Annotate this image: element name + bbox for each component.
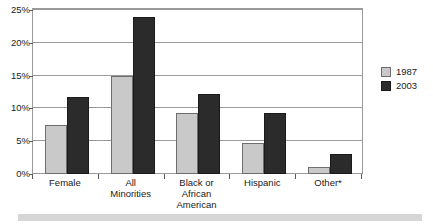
x-category-label-line: Other* (295, 177, 361, 188)
bar-group (100, 10, 166, 174)
y-tick-mark (29, 76, 33, 77)
bar-1987 (111, 76, 133, 174)
x-category-label: AllMinorities (98, 177, 164, 199)
y-tick-label: 10% (11, 102, 30, 113)
bar-2003 (133, 17, 155, 174)
bar-group (231, 10, 297, 174)
bars-container (34, 10, 363, 174)
x-category-label-line: Minorities (98, 188, 164, 199)
legend-item-2003[interactable]: 2003 (381, 80, 433, 91)
y-tick-label: 25% (11, 4, 30, 15)
y-tick-label: 5% (16, 135, 30, 146)
y-tick-label: 20% (11, 36, 30, 47)
y-tick-mark (29, 141, 33, 142)
x-category-label: Hispanic (229, 177, 295, 188)
legend-label: 2003 (396, 80, 417, 91)
bar-1987 (242, 143, 264, 174)
bar-group (34, 10, 100, 174)
bar-2003 (198, 94, 220, 174)
x-category-label-line: All (98, 177, 164, 188)
chart-legend: 19872003 (381, 66, 433, 94)
x-category-label: Other* (295, 177, 361, 188)
x-category-label-line: Female (32, 177, 98, 188)
bar-1987 (176, 113, 198, 174)
legend-item-1987[interactable]: 1987 (381, 66, 433, 77)
y-tick-mark (29, 10, 33, 11)
legend-swatch-icon (381, 67, 391, 77)
bar-chart-figure: 0%5%10%15%20%25% FemaleAllMinoritiesBlac… (0, 0, 433, 224)
bar-1987 (45, 125, 67, 174)
x-category-label: Black orAfricanAmerican (164, 177, 230, 210)
bar-2003 (67, 97, 89, 174)
x-category-label: Female (32, 177, 98, 188)
y-tick-label: 15% (11, 69, 30, 80)
x-category-label-line: American (164, 199, 230, 210)
bottom-strip (18, 214, 422, 221)
y-tick-mark (29, 108, 33, 109)
x-category-label-line: Hispanic (229, 177, 295, 188)
x-category-label-line: African (164, 188, 230, 199)
legend-swatch-icon (381, 81, 391, 91)
bar-2003 (330, 154, 352, 174)
y-tick-label: 0% (16, 168, 30, 179)
bar-group (166, 10, 232, 174)
y-axis-labels: 0%5%10%15%20%25% (0, 8, 30, 174)
y-tick-mark (29, 43, 33, 44)
legend-label: 1987 (396, 66, 417, 77)
bar-2003 (264, 113, 286, 174)
bar-1987 (308, 167, 330, 174)
x-category-label-line: Black or (164, 177, 230, 188)
plot-area (32, 8, 363, 174)
bar-group (297, 10, 363, 174)
